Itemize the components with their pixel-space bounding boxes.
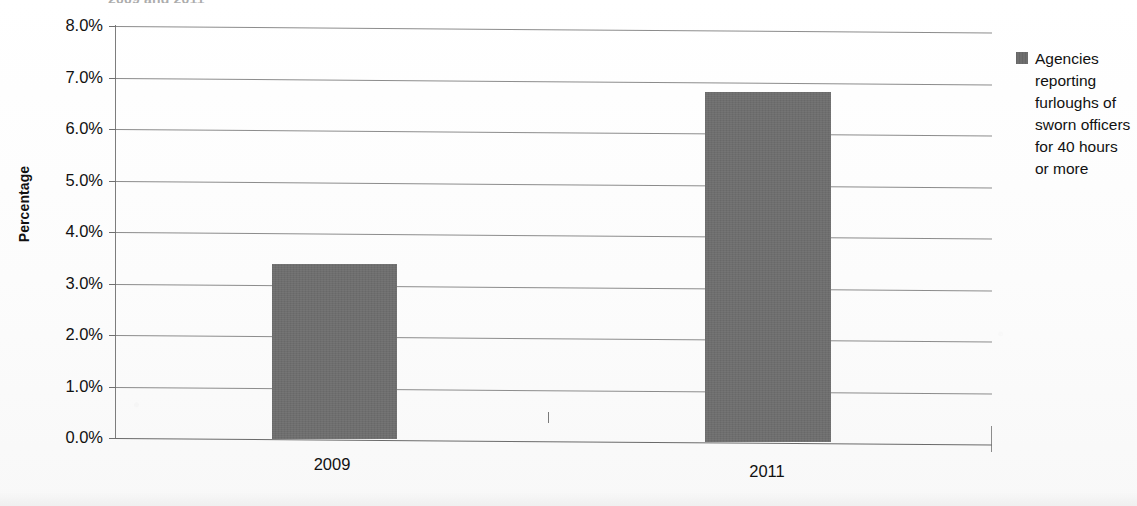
scan-edge-shadow (0, 492, 1137, 506)
gridline (115, 181, 992, 188)
gridline (115, 387, 992, 394)
y-axis-tick-label: 2.0% (33, 326, 103, 343)
y-axis-tick-label: 5.0% (33, 172, 103, 189)
gridline (115, 335, 992, 342)
plot-area (115, 26, 992, 438)
y-axis-tick (109, 232, 116, 233)
legend-swatch-icon (1016, 52, 1028, 64)
y-axis-tick (109, 78, 116, 79)
gridline (115, 78, 992, 85)
y-axis-tick (109, 438, 116, 439)
chart-page: 2009 and 2011 Percentage 0.0%1.0%2.0%3.0… (0, 0, 1137, 506)
bar (272, 264, 397, 439)
gridline (115, 438, 992, 445)
gridline (115, 284, 992, 291)
y-axis-tick-label: 4.0% (33, 223, 103, 240)
y-axis-tick-label: 1.0% (33, 378, 103, 395)
y-axis-tick-label: 0.0% (33, 429, 103, 446)
legend-label: Agencies reporting furloughs of sworn of… (1035, 48, 1134, 180)
y-axis-tick (109, 284, 116, 285)
x-axis-divider-tick (548, 412, 549, 423)
x-axis-tick-label: 2011 (727, 462, 807, 481)
x-axis-tick-label: 2009 (292, 455, 372, 474)
gridline (115, 232, 992, 239)
legend: Agencies reporting furloughs of sworn of… (1016, 48, 1134, 180)
y-axis-tick (109, 181, 116, 182)
y-axis-tick (109, 387, 116, 388)
bar (705, 92, 831, 442)
y-axis-title: Percentage (16, 134, 32, 274)
y-axis-tick-label: 3.0% (33, 275, 103, 292)
y-axis-tick (109, 335, 116, 336)
y-axis-tick-label: 7.0% (33, 69, 103, 86)
gridline (115, 129, 992, 136)
y-axis-tick (109, 129, 116, 130)
y-axis-tick (109, 26, 116, 27)
y-axis-tick-label: 8.0% (33, 17, 103, 34)
gridline (115, 26, 992, 33)
y-axis-tick-label: 6.0% (33, 120, 103, 137)
plot-right-edge (991, 426, 992, 452)
chart-title: 2009 and 2011 (108, 0, 528, 3)
